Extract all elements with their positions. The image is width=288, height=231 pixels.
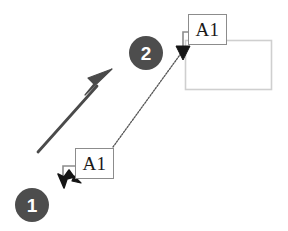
drag-direction-arrow <box>38 69 112 152</box>
step-badge-2: 2 <box>129 36 163 70</box>
step-badge-2-number: 2 <box>141 44 152 63</box>
cursor-arrowhead-bottom <box>58 170 74 188</box>
container-rectangle[interactable] <box>186 41 272 90</box>
node-box-bottom[interactable]: A1 <box>75 148 114 179</box>
step-badge-1-number: 1 <box>27 196 38 215</box>
node-box-top[interactable]: A1 <box>188 14 227 45</box>
diagram-canvas: A1 A1 1 2 <box>0 0 288 231</box>
node-box-top-label: A1 <box>195 20 219 39</box>
step-badge-1: 1 <box>15 188 49 222</box>
node-box-bottom-label: A1 <box>82 154 106 173</box>
